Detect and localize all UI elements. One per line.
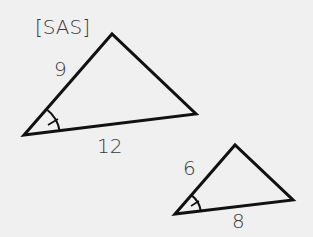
large-angle-arc [47,109,60,131]
diagram-title: [SAS] [35,17,90,37]
small-left-side-label: 6 [183,158,196,178]
small-bottom-side-label: 8 [232,211,245,231]
sas-similarity-diagram: [SAS] 9 12 6 8 [0,0,313,237]
large-left-side-label: 9 [54,59,67,79]
large-bottom-side-label: 12 [97,136,122,156]
large-triangle [24,34,196,135]
large-triangle-outline [24,34,196,135]
